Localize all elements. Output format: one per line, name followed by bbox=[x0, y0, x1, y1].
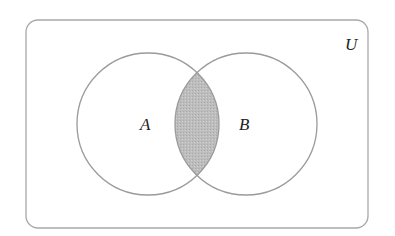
universe-label: U bbox=[345, 35, 359, 54]
set-a-label: A bbox=[139, 115, 151, 134]
venn-diagram: U A B bbox=[0, 0, 395, 236]
set-b-label: B bbox=[239, 115, 250, 134]
